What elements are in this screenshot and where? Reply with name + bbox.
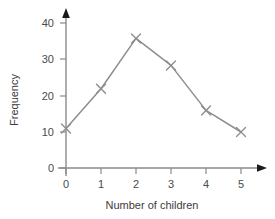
y-tick-label-30: 30 (42, 53, 54, 65)
y-axis (62, 8, 70, 176)
y-tick-label-40: 40 (42, 17, 54, 29)
y-tick-label-0: 0 (48, 162, 54, 174)
data-point-2 (132, 34, 141, 43)
data-point-5 (237, 128, 246, 137)
x-axis-title: Number of children (106, 199, 199, 211)
y-axis-tick-labels: 0 10 20 30 40 (42, 17, 54, 174)
data-point-4 (202, 106, 211, 115)
frequency-series-line (66, 38, 241, 132)
y-axis-arrow-icon (62, 8, 70, 18)
data-point-markers (62, 34, 246, 137)
x-axis-ticks (66, 168, 241, 174)
y-tick-label-10: 10 (42, 126, 54, 138)
y-axis-title: Frequency (8, 74, 20, 126)
data-point-3 (167, 61, 176, 70)
x-tick-label-1: 1 (98, 178, 104, 190)
x-tick-label-3: 3 (168, 178, 174, 190)
y-tick-label-20: 20 (42, 90, 54, 102)
x-tick-label-5: 5 (238, 178, 244, 190)
data-point-1 (97, 84, 106, 93)
y-axis-ticks (60, 23, 66, 168)
frequency-polygon-chart: 0 10 20 30 40 0 1 2 3 4 5 (0, 0, 275, 219)
x-axis-arrow-icon (257, 164, 267, 172)
chart-canvas: 0 10 20 30 40 0 1 2 3 4 5 (0, 0, 275, 219)
x-tick-label-0: 0 (63, 178, 69, 190)
x-axis-tick-labels: 0 1 2 3 4 5 (63, 178, 244, 190)
x-tick-label-4: 4 (203, 178, 209, 190)
x-tick-label-2: 2 (133, 178, 139, 190)
x-axis (58, 164, 267, 172)
